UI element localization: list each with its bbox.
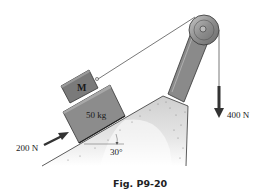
block-m-label: M	[77, 82, 87, 93]
pulley-axle-icon	[200, 26, 206, 32]
push-force-arrow-icon	[44, 132, 69, 145]
figure-caption: Fig. P9-20	[113, 178, 168, 189]
angle-label: 30°	[110, 147, 123, 157]
hanging-force-arrow-icon	[214, 86, 224, 118]
rope-hook-icon	[95, 77, 98, 80]
physics-diagram: M 50 kg 200 N 400 N 30° Fig. P9-20	[0, 0, 270, 193]
pulley	[189, 15, 219, 45]
hanging-force-label: 400 N	[227, 110, 250, 120]
push-force-label: 200 N	[16, 143, 39, 153]
block-50kg-label: 50 kg	[86, 110, 107, 120]
